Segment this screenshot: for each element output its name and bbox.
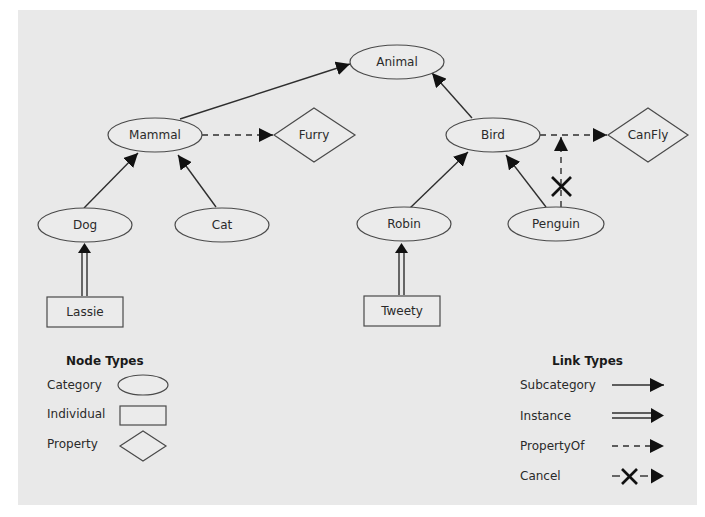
- legend-label: Instance: [520, 409, 571, 423]
- node-label: Penguin: [532, 217, 580, 231]
- cancel-arrow-icon: [612, 469, 664, 485]
- edge-tweety-robin: [395, 243, 408, 295]
- node-cat[interactable]: Cat: [175, 208, 269, 242]
- edge-robin-bird: [410, 152, 468, 208]
- legend-link-types: Link Types Subcategory Instance Property…: [520, 354, 664, 484]
- edge-penguin-bird: [506, 155, 546, 207]
- edge-cat-mammal: [178, 155, 216, 207]
- node-furry[interactable]: Furry: [274, 108, 355, 162]
- legend-label: Category: [47, 378, 102, 392]
- node-canfly[interactable]: CanFly: [608, 108, 688, 162]
- legend-label: Individual: [47, 407, 105, 421]
- legend-node-types: Node Types Category Individual Property: [47, 354, 168, 461]
- node-label: Bird: [481, 128, 505, 142]
- node-label: Tweety: [380, 304, 423, 318]
- node-bird[interactable]: Bird: [446, 118, 540, 152]
- semantic-network-diagram: Animal Mammal Bird Furry CanFly Dog Cat …: [0, 0, 705, 517]
- node-tweety[interactable]: Tweety: [364, 296, 440, 326]
- node-label: Lassie: [66, 305, 103, 319]
- node-penguin[interactable]: Penguin: [508, 207, 604, 241]
- node-lassie[interactable]: Lassie: [47, 297, 123, 327]
- node-label: Animal: [376, 55, 418, 69]
- node-label: Cat: [212, 218, 233, 232]
- legend-title: Link Types: [552, 354, 623, 368]
- edge-lassie-dog: [78, 243, 91, 296]
- legend-label: Cancel: [520, 469, 561, 483]
- edge-mammal-animal: [180, 64, 350, 119]
- edge-dog-mammal: [84, 153, 138, 208]
- diamond-icon: [120, 431, 166, 461]
- node-label: Dog: [73, 218, 97, 232]
- node-label: CanFly: [628, 128, 669, 142]
- node-mammal[interactable]: Mammal: [108, 118, 202, 152]
- node-animal[interactable]: Animal: [350, 45, 444, 79]
- legend-label: Subcategory: [520, 378, 596, 392]
- node-label: Furry: [299, 128, 330, 142]
- legend-label: PropertyOf: [520, 439, 585, 453]
- node-label: Mammal: [129, 128, 181, 142]
- node-robin[interactable]: Robin: [357, 207, 451, 241]
- node-label: Robin: [387, 217, 421, 231]
- legend-label: Property: [47, 437, 98, 451]
- legend-title: Node Types: [66, 354, 144, 368]
- edge-bird-animal: [432, 73, 472, 118]
- rectangle-icon: [120, 406, 166, 425]
- double-arrow-icon: [612, 408, 664, 423]
- ellipse-icon: [118, 375, 168, 395]
- node-dog[interactable]: Dog: [38, 208, 132, 242]
